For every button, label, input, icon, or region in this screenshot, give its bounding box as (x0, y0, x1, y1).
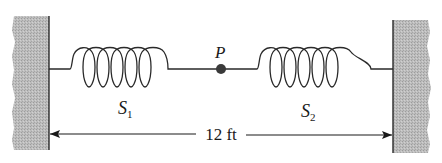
spring-s1-label-main: S (118, 98, 127, 118)
dimension-label: 12 ft (205, 125, 237, 144)
point-p-label: P (214, 43, 225, 62)
dimension-line: 12 ft (50, 125, 392, 144)
spring-s1 (49, 48, 221, 88)
left-wall-hatch (12, 16, 49, 150)
spring-s2 (221, 48, 393, 88)
spring-s2-label-main: S (301, 101, 310, 121)
right-wall-hatch (393, 20, 431, 153)
spring-s2-label: S2 (301, 101, 316, 123)
left-wall (12, 16, 49, 150)
right-wall (393, 20, 431, 153)
spring-s1-label-sub: 1 (127, 108, 133, 120)
spring-diagram: P S1 S2 12 ft (0, 0, 442, 163)
spring-s1-label: S1 (118, 98, 133, 120)
point-p (216, 64, 226, 74)
spring-s2-label-sub: 2 (310, 111, 316, 123)
